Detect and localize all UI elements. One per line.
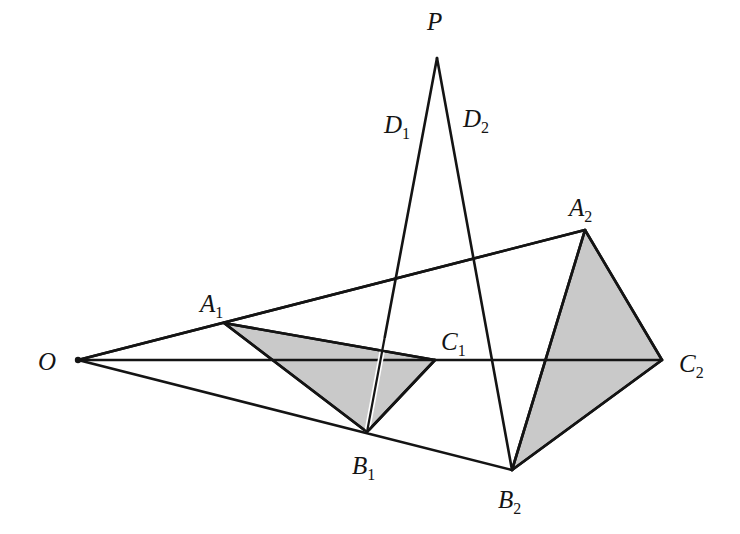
vertex-dot-O xyxy=(75,357,81,363)
label-C2-subscript: 2 xyxy=(696,364,704,381)
diagram-canvas: OPA1B1C1D1A2B2C2D2 xyxy=(0,0,740,534)
label-P: P xyxy=(426,8,442,35)
geometry-figure: OPA1B1C1D1A2B2C2D2 xyxy=(0,0,740,534)
label-A1-subscript: 1 xyxy=(215,304,223,321)
vertex-markers xyxy=(75,357,81,363)
label-D1-subscript: 1 xyxy=(402,125,410,142)
label-C1-subscript: 1 xyxy=(458,342,466,359)
label-B1-subscript: 1 xyxy=(367,466,375,483)
label-A2-subscript: 2 xyxy=(584,208,592,225)
label-B2-subscript: 2 xyxy=(513,500,521,517)
label-O: O xyxy=(38,348,56,375)
label-D2-subscript: 2 xyxy=(481,119,489,136)
figure-background xyxy=(0,0,740,534)
